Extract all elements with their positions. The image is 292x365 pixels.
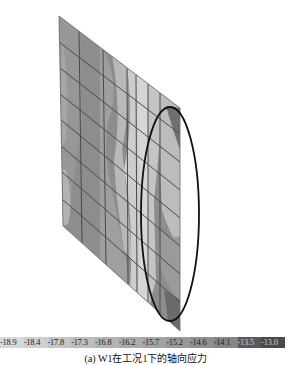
colorbar-segment: -17.3 (71, 337, 95, 348)
colorbar-segment: -15.7 (143, 337, 167, 348)
wall-plate (55, 10, 185, 335)
colorbar-segment: -16.2 (119, 337, 143, 348)
colorbar-segment: -13.5 (238, 337, 262, 348)
colorbar-segment: -18.4 (24, 337, 48, 348)
colorbar-segment: -15.2 (166, 337, 190, 348)
figure-caption: (a) W1在工况1下的轴向应力 (0, 350, 292, 365)
stress-colorbar: -18.9 -18.4 -17.8 -17.3 -16.8 -16.2 -15.… (0, 337, 285, 348)
stress-contour-figure (0, 0, 292, 335)
colorbar-segment: -14.6 (190, 337, 214, 348)
colorbar-segment: -16.8 (95, 337, 119, 348)
colorbar-segment: -18.9 (0, 337, 24, 348)
stress-contour-plot (0, 0, 292, 335)
colorbar-segment: -14.1 (214, 337, 238, 348)
colorbar-segment: -13.0 (261, 337, 285, 348)
colorbar-segment: -17.8 (48, 337, 72, 348)
